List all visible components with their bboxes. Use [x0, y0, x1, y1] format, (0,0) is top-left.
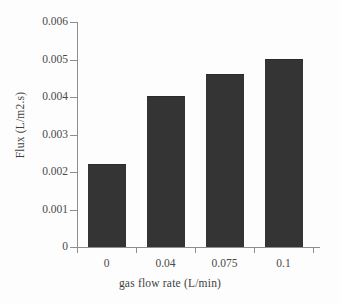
- x-axis-title: gas flow rate (L/min): [0, 277, 340, 289]
- x-axis-tick: [77, 247, 78, 253]
- y-axis-tick-label-wrap: 0.001: [0, 210, 68, 211]
- y-axis-tick-label-wrap: 0.004: [0, 97, 68, 98]
- x-axis-tick-label: 0.075: [212, 258, 238, 270]
- bar-chart-figure: Flux (L/m2.s) 00.0010.0020.0030.0040.005…: [0, 0, 340, 304]
- x-axis-tick-label: 0: [104, 258, 110, 270]
- x-axis-tick: [313, 247, 314, 253]
- y-axis-tick-label-wrap: 0.006: [0, 22, 68, 23]
- y-axis-tick-label-wrap: 0.003: [0, 135, 68, 136]
- y-axis-tick-label: 0.001: [4, 204, 68, 216]
- y-axis-tick-label-wrap: 0: [0, 247, 68, 248]
- y-axis-tick-label: 0.003: [4, 129, 68, 141]
- x-axis-tick: [136, 247, 137, 253]
- y-axis-tick-label: 0.006: [4, 16, 68, 28]
- x-axis-tick: [254, 247, 255, 253]
- x-axis-tick: [195, 247, 196, 253]
- y-axis-tick-label-wrap: 0.005: [0, 60, 68, 61]
- bar: [265, 59, 303, 248]
- x-axis-tick-label: 0.04: [155, 258, 175, 270]
- plot-area: [77, 22, 313, 247]
- x-axis-tick-label: 0.1: [276, 258, 290, 270]
- y-axis-tick-label: 0: [4, 241, 68, 253]
- bar: [147, 96, 185, 247]
- bar: [206, 74, 244, 248]
- y-axis-tick-label: 0.004: [4, 91, 68, 103]
- y-axis-tick-label: 0.002: [4, 166, 68, 178]
- y-axis-tick-label-wrap: 0.002: [0, 172, 68, 173]
- bar: [88, 164, 126, 248]
- y-axis-tick-label: 0.005: [4, 54, 68, 66]
